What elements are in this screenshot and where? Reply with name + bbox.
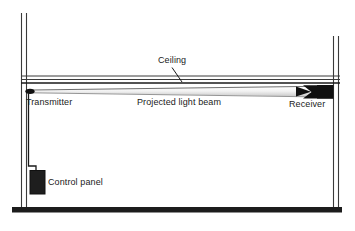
floor-bar xyxy=(12,207,342,213)
label-ceiling: Ceiling xyxy=(158,55,186,66)
beam-detector-diagram: Ceiling Transmitter Projected light beam… xyxy=(0,0,355,231)
label-receiver: Receiver xyxy=(289,99,325,110)
light-beam xyxy=(31,86,310,96)
left-wall xyxy=(22,13,27,208)
label-transmitter: Transmitter xyxy=(26,97,72,108)
transmitter-device xyxy=(25,89,34,94)
right-wall xyxy=(334,36,339,208)
control-panel-box xyxy=(30,171,45,195)
label-control-panel: Control panel xyxy=(48,177,103,188)
diagram-canvas xyxy=(0,0,355,231)
label-projected-light-beam: Projected light beam xyxy=(137,97,221,108)
